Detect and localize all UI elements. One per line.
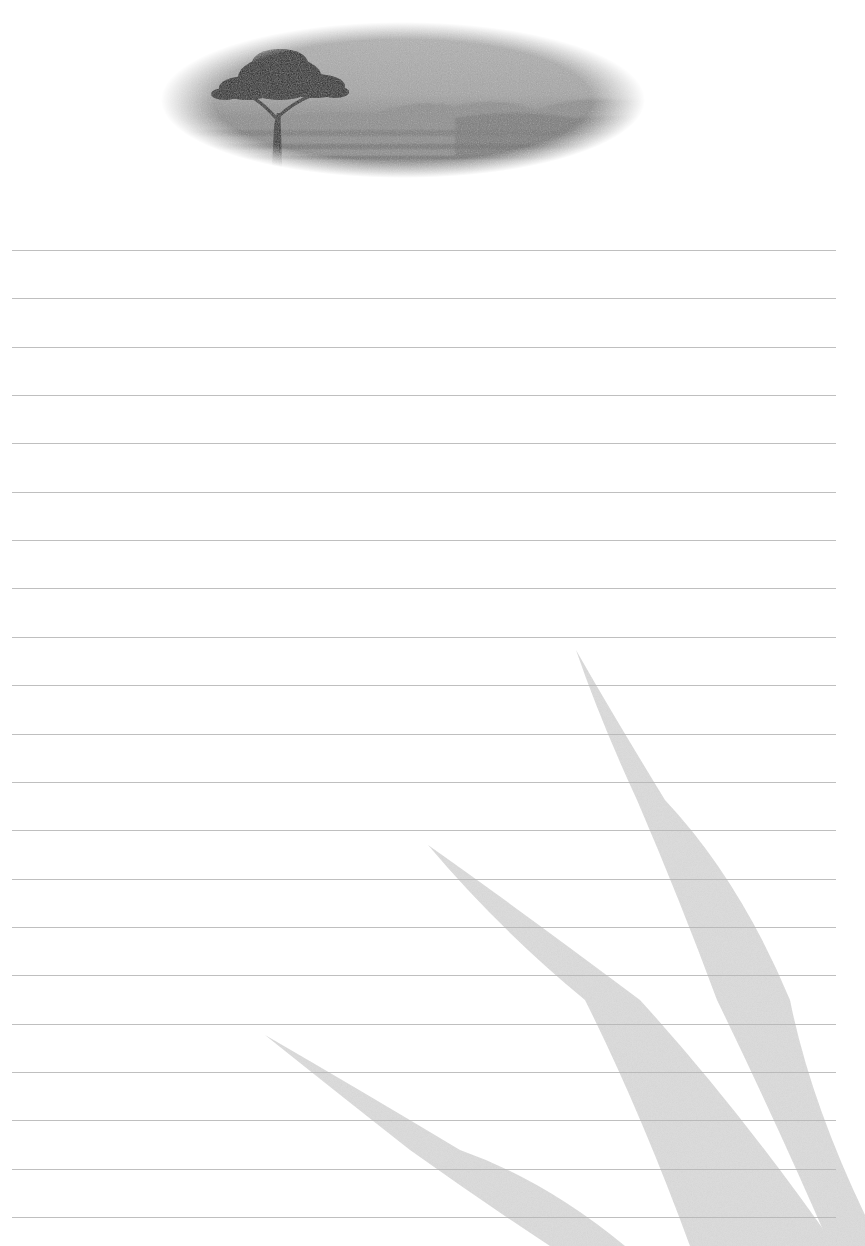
ruled-line (12, 830, 836, 831)
ruled-line (12, 1217, 836, 1218)
ruled-line (12, 250, 836, 251)
ruled-line (12, 347, 836, 348)
ruled-line (12, 734, 836, 735)
ruled-line (12, 927, 836, 928)
stationery-page: Acacia tree on savanna landscape (oval v… (0, 0, 865, 1246)
ruled-line (12, 395, 836, 396)
ruled-line (12, 492, 836, 493)
ruled-line (12, 975, 836, 976)
ruled-line (12, 298, 836, 299)
ruled-line (12, 588, 836, 589)
ruled-line (12, 1120, 836, 1121)
ruled-line (12, 443, 836, 444)
ruled-line (12, 1169, 836, 1170)
ruled-line (12, 782, 836, 783)
ruled-lines (0, 0, 865, 1246)
ruled-line (12, 637, 836, 638)
ruled-line (12, 1072, 836, 1073)
ruled-line (12, 540, 836, 541)
ruled-line (12, 1024, 836, 1025)
ruled-line (12, 879, 836, 880)
ruled-line (12, 685, 836, 686)
